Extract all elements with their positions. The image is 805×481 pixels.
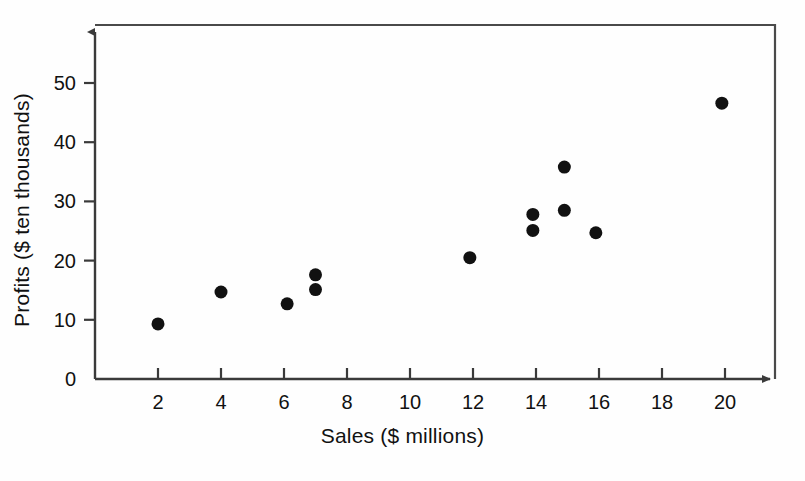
scatter-plot-figure: 010203040502468101214161820 Profits ($ t… — [0, 0, 805, 481]
data-point — [715, 97, 728, 110]
y-tick-label: 0 — [40, 369, 76, 389]
x-axis-label: Sales ($ millions) — [0, 424, 805, 448]
data-point — [152, 317, 165, 330]
x-tick-label: 14 — [525, 392, 547, 412]
x-tick-label: 12 — [462, 392, 484, 412]
y-tick-label: 10 — [40, 310, 76, 330]
x-tick-label: 18 — [651, 392, 673, 412]
x-axis-ticks — [158, 368, 725, 379]
data-point — [309, 268, 322, 281]
y-axis-label: Profits ($ ten thousands) — [10, 93, 34, 327]
y-axis-label-container: Profits ($ ten thousands) — [0, 0, 44, 420]
x-tick-label: 10 — [399, 392, 421, 412]
x-tick-label: 6 — [278, 392, 289, 412]
x-tick-label: 16 — [588, 392, 610, 412]
y-tick-label: 30 — [40, 191, 76, 211]
plot-frame — [95, 25, 775, 379]
x-tick-label: 20 — [714, 392, 736, 412]
x-tick-label: 8 — [341, 392, 352, 412]
data-point — [526, 224, 539, 237]
data-point — [463, 251, 476, 264]
data-point — [309, 283, 322, 296]
x-tick-label: 4 — [215, 392, 226, 412]
y-tick-label: 40 — [40, 132, 76, 152]
data-point-group — [152, 97, 729, 331]
data-point — [558, 204, 571, 217]
axis-lines — [95, 32, 770, 379]
data-point — [215, 285, 228, 298]
y-axis-ticks — [84, 83, 95, 320]
data-point — [526, 208, 539, 221]
data-point — [589, 226, 602, 239]
y-tick-label: 20 — [40, 251, 76, 271]
data-point — [558, 161, 571, 174]
data-point — [281, 297, 294, 310]
x-tick-label: 2 — [152, 392, 163, 412]
y-tick-label: 50 — [40, 73, 76, 93]
